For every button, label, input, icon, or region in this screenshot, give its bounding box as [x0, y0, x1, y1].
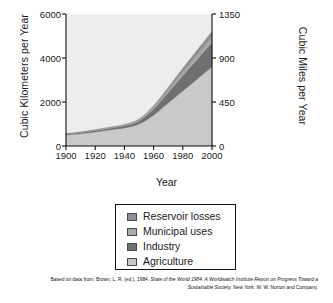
caption-line-2: Sustainable Society. New York: W. W. Nor… [18, 284, 318, 292]
y-tick-label-left: 2000 [40, 97, 61, 108]
legend-label-municipal-uses: Municipal uses [143, 226, 212, 237]
chart-area: Cubic Kilometers per Year Cubic Miles pe… [0, 8, 333, 193]
x-axis-title: Year [0, 176, 333, 188]
y-tick-label-right: 1350 [219, 9, 240, 20]
y-tick-label-right: 900 [219, 53, 235, 64]
figure-water-use-chart: Cubic Kilometers per Year Cubic Miles pe… [0, 0, 333, 303]
x-tick-label: 1900 [55, 150, 76, 161]
plot-area: 0200040006000045090013501900192019401960… [66, 14, 212, 146]
y-tick-label-right: 450 [219, 97, 235, 108]
x-tick-label: 2000 [201, 150, 222, 161]
legend-label-industry: Industry [143, 241, 180, 252]
y-tick-label-left: 6000 [40, 9, 61, 20]
legend-item-reservoir-losses: Reservoir losses [127, 209, 235, 224]
caption-line-1: Based on data from: Brown, L. R. (ed.), … [18, 276, 318, 284]
legend-item-industry: Industry [127, 239, 235, 254]
y-axis-right-title: Cubic Miles per Year [297, 6, 309, 146]
legend-item-agriculture: Agriculture [127, 254, 235, 269]
legend-swatch-reservoir-losses [127, 213, 137, 221]
caption-line2-post: New York: W. W. Norton and Company. [232, 285, 318, 290]
y-tick-label-left: 4000 [40, 53, 61, 64]
chart-legend: Reservoir losses Municipal uses Industry… [115, 204, 236, 270]
y-axis-left-title: Cubic Kilometers per Year [18, 6, 30, 146]
x-tick-label: 1920 [85, 150, 106, 161]
x-tick-label: 1940 [114, 150, 135, 161]
legend-label-agriculture: Agriculture [143, 256, 193, 267]
caption-line1-italic: State of the World 1984: A Worldwatch In… [151, 277, 318, 282]
x-tick-label: 1960 [143, 150, 164, 161]
caption-line2-italic: Sustainable Society. [188, 285, 232, 290]
legend-swatch-agriculture [127, 258, 137, 266]
source-caption: Based on data from: Brown, L. R. (ed.), … [18, 276, 318, 292]
legend-swatch-municipal-uses [127, 228, 137, 236]
x-tick-label: 1980 [172, 150, 193, 161]
stacked-area-plot [66, 14, 212, 146]
legend-label-reservoir-losses: Reservoir losses [143, 211, 221, 222]
caption-line1-pre: Based on data from: Brown, L. R. (ed.), … [51, 277, 151, 282]
legend-swatch-industry [127, 243, 137, 251]
legend-item-municipal-uses: Municipal uses [127, 224, 235, 239]
